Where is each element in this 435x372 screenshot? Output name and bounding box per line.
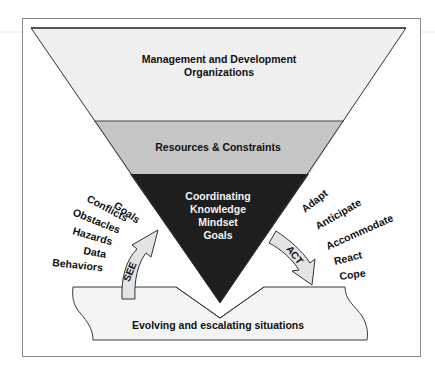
top-band-line1: Management and Development xyxy=(142,53,297,65)
top-band-line2: Organizations xyxy=(184,66,254,78)
base-label: Evolving and escalating situations xyxy=(132,319,304,331)
bottom-band-line1: Coordinating xyxy=(185,190,250,202)
bottom-band-line3: Mindset xyxy=(198,216,238,228)
diagram-canvas: Management and Development Organizations… xyxy=(0,0,435,372)
middle-band-label: Resources & Constraints xyxy=(155,141,281,153)
bottom-band-line2: Knowledge xyxy=(190,203,246,215)
bottom-band-line4: Goals xyxy=(203,229,232,241)
